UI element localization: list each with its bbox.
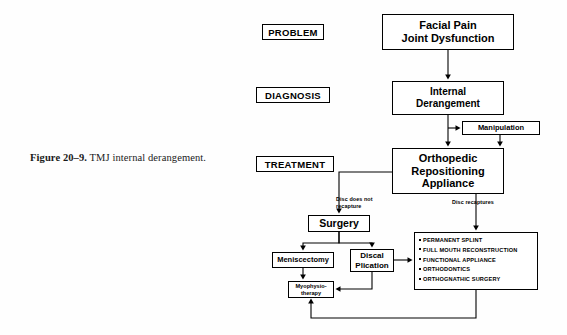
node-treatment-line-1: Orthopedic (411, 152, 484, 165)
node-surgery: Surgery (308, 215, 370, 232)
figure-page: Figure 20–9. TMJ internal derangement. P… (0, 0, 567, 335)
edge-label-line-2: recapture (336, 203, 373, 210)
node-orthopedic-repositioning-appliance: Orthopedic Repositioning Appliance (392, 148, 504, 194)
node-facial-pain-joint-dysfunction: Facial Pain Joint Dysfunction (382, 14, 514, 50)
node-discal-line-1: Discal (355, 251, 388, 260)
figure-caption-number: Figure 20–9. (30, 152, 87, 163)
option-item: FULL MOUTH RECONSTRUCTION (419, 246, 537, 256)
edge-label-line-1: Disc does not (336, 196, 373, 203)
option-item: ORTHODONTICS (419, 265, 537, 275)
edge-discal-to-myotherapy (337, 272, 372, 289)
edge-label-disc-does-not-recapture: Disc does not recapture (336, 196, 373, 211)
node-diagnosis-line-2: Derangement (416, 98, 480, 110)
node-treatment-line-2: Repositioning (411, 165, 484, 178)
node-internal-derangement: Internal Derangement (392, 81, 504, 115)
stage-label-diagnosis: DIAGNOSIS (256, 87, 330, 103)
node-meniscectomy: Meniscectomy (272, 252, 334, 268)
option-item: PERMANENT SPLINT (419, 236, 537, 246)
node-diagnosis-line-1: Internal (416, 86, 480, 98)
node-problem-line-2: Joint Dysfunction (402, 32, 495, 45)
node-discal-plication: Discal Plication (350, 249, 394, 272)
node-myophysiotherapy: Myophysio- therapy (288, 281, 334, 298)
node-treatment-options-list: PERMANENT SPLINT FULL MOUTH RECONSTRUCTI… (414, 232, 538, 290)
option-item: ORTHOGNATHIC SURGERY (419, 275, 537, 285)
figure-caption-text: TMJ internal derangement. (87, 152, 206, 163)
edge-surgery-to-meniscectomy (303, 232, 339, 249)
node-manipulation: Manipulation (462, 121, 540, 135)
edge-options-feedback-to-myotherapy (311, 290, 476, 318)
edge-label-disc-recaptures: Disc recaptures (452, 199, 494, 206)
node-discal-line-2: Plication (355, 261, 388, 270)
stage-label-problem: PROBLEM (262, 24, 324, 40)
node-myotherapy-line-1: Myophysio- (295, 283, 326, 290)
edge-surgery-to-discal (339, 232, 372, 246)
node-myotherapy-line-2: therapy (295, 290, 326, 297)
option-item: FUNCTIONAL APPLIANCE (419, 256, 537, 266)
node-treatment-line-3: Appliance (411, 177, 484, 190)
stage-label-treatment: TREATMENT (256, 156, 334, 172)
figure-caption: Figure 20–9. TMJ internal derangement. (30, 152, 206, 163)
node-problem-line-1: Facial Pain (402, 19, 495, 32)
